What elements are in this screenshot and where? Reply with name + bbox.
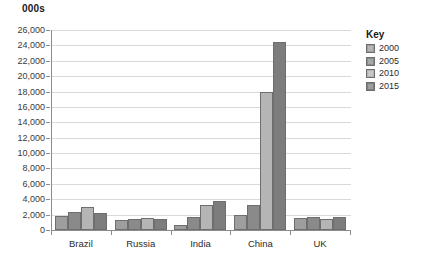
x-tick-mark xyxy=(350,230,351,235)
bar xyxy=(115,220,128,230)
x-tick-label: India xyxy=(171,238,231,249)
y-tick-mark xyxy=(46,45,50,46)
bar xyxy=(333,217,346,230)
legend-label: 2005 xyxy=(379,57,399,66)
bar xyxy=(187,217,200,230)
y-tick-mark xyxy=(46,122,50,123)
y-tick-label: 18,000 xyxy=(0,87,45,97)
bar-groups xyxy=(51,30,350,230)
bar xyxy=(234,215,247,230)
legend-swatch-icon xyxy=(366,82,375,91)
bar xyxy=(55,216,68,230)
y-tick-mark xyxy=(46,215,50,216)
bar xyxy=(307,217,320,230)
bar-group xyxy=(171,30,231,230)
y-tick-label: 24,000 xyxy=(0,40,45,50)
y-tick-mark xyxy=(46,199,50,200)
bar xyxy=(247,205,260,230)
x-tick-label: UK xyxy=(290,238,350,249)
unit-label: 000s xyxy=(22,3,45,14)
bar xyxy=(260,92,273,230)
legend-item[interactable]: 2000 xyxy=(366,44,418,53)
legend-rows: 2000200520102015 xyxy=(366,44,418,91)
bar-group xyxy=(111,30,171,230)
bar-group xyxy=(230,30,290,230)
bar-group xyxy=(51,30,111,230)
y-tick-mark xyxy=(46,138,50,139)
y-tick-label: 4,000 xyxy=(0,194,45,204)
y-tick-mark xyxy=(46,168,50,169)
legend-swatch-icon xyxy=(366,44,375,53)
x-tick-mark xyxy=(290,230,291,235)
y-tick-label: 20,000 xyxy=(0,71,45,81)
bar xyxy=(320,219,333,230)
bar xyxy=(174,225,187,230)
x-tick-label: Brazil xyxy=(51,238,111,249)
y-tick-mark xyxy=(46,184,50,185)
y-tick-label: 14,000 xyxy=(0,117,45,127)
legend: Key 2000200520102015 xyxy=(366,29,418,94)
y-tick-label: 8,000 xyxy=(0,163,45,173)
y-tick-label: 0 xyxy=(0,225,45,235)
y-tick-mark xyxy=(46,153,50,154)
y-tick-mark xyxy=(46,30,50,31)
bar xyxy=(294,218,307,230)
y-tick-mark xyxy=(46,61,50,62)
y-tick-mark xyxy=(46,230,50,231)
y-tick-label: 16,000 xyxy=(0,102,45,112)
legend-item[interactable]: 2015 xyxy=(366,82,418,91)
bar xyxy=(141,218,154,230)
y-tick-label: 26,000 xyxy=(0,25,45,35)
legend-item[interactable]: 2010 xyxy=(366,69,418,78)
y-tick-mark xyxy=(46,107,50,108)
y-tick-mark xyxy=(46,76,50,77)
y-tick-mark xyxy=(46,92,50,93)
bar xyxy=(200,205,213,230)
y-tick-label: 10,000 xyxy=(0,148,45,158)
legend-label: 2000 xyxy=(379,44,399,53)
y-tick-label: 12,000 xyxy=(0,133,45,143)
bar xyxy=(94,213,107,230)
legend-swatch-icon xyxy=(366,69,375,78)
x-tick-mark xyxy=(171,230,172,235)
legend-item[interactable]: 2005 xyxy=(366,57,418,66)
x-tick-mark xyxy=(230,230,231,235)
x-tick-label: China xyxy=(230,238,290,249)
bar xyxy=(68,212,81,230)
bar xyxy=(81,207,94,230)
legend-swatch-icon xyxy=(366,57,375,66)
legend-label: 2010 xyxy=(379,69,399,78)
y-tick-label: 2,000 xyxy=(0,210,45,220)
bar xyxy=(154,219,167,230)
bar xyxy=(128,219,141,230)
x-tick-mark xyxy=(111,230,112,235)
y-tick-label: 22,000 xyxy=(0,56,45,66)
bar xyxy=(213,201,226,230)
x-tick-label: Russia xyxy=(111,238,171,249)
bar xyxy=(273,42,286,230)
bar-group xyxy=(290,30,350,230)
legend-label: 2015 xyxy=(379,82,399,91)
x-tick-mark xyxy=(51,230,52,235)
y-tick-label: 6,000 xyxy=(0,179,45,189)
legend-title: Key xyxy=(366,29,418,40)
bar-chart: 000s 02,0004,0006,0008,00010,00012,00014… xyxy=(0,0,421,267)
